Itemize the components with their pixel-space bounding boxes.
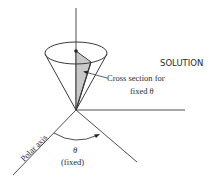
theta-label: θ <box>73 145 77 155</box>
point-dot <box>74 49 78 53</box>
theta-arc-arrowhead <box>94 134 100 138</box>
cross-section-label-line1: Cross section for <box>107 73 165 83</box>
fixed-label: (fixed) <box>61 157 84 167</box>
polar-axis-label: Polar axis <box>18 132 49 163</box>
theta-arc <box>54 133 98 140</box>
cone-cross-section-diagram: SOLUTION Cross section for fixed θ Polar… <box>0 0 224 188</box>
cross-section-label-line2: fixed θ <box>130 86 154 96</box>
solution-heading: SOLUTION <box>160 58 203 68</box>
theta-ray <box>76 110 137 162</box>
